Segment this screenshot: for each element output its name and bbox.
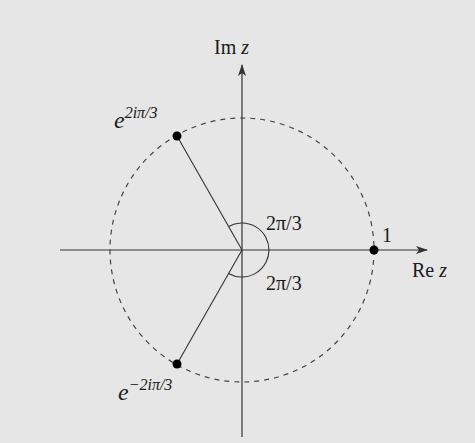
point-omega <box>173 132 182 141</box>
radius-omega-bar <box>177 250 242 364</box>
point-one <box>370 246 379 255</box>
label-omega: e2iπ/3 <box>114 104 158 133</box>
y-axis-label: Im z <box>214 36 249 58</box>
label-one: 1 <box>382 224 392 246</box>
angle-label-upper: 2π/3 <box>266 212 302 234</box>
diagram-canvas: Im z Re z 1 e2iπ/3 e−2iπ/3 2π/3 2π/3 <box>0 0 475 443</box>
radius-omega <box>177 136 242 250</box>
label-omega-bar: e−2iπ/3 <box>118 376 172 405</box>
x-axis-label: Re z <box>412 259 447 281</box>
angle-label-lower: 2π/3 <box>266 272 302 294</box>
point-omega-bar <box>173 360 182 369</box>
